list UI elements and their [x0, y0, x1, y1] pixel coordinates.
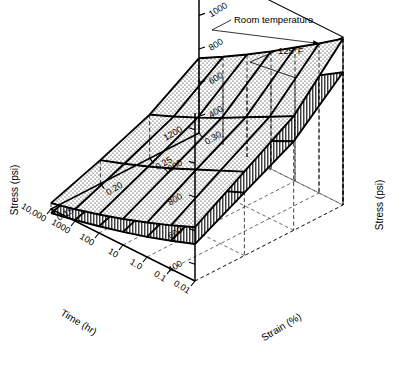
axis-title-time: Time (hr) — [59, 307, 99, 337]
figure-canvas: 12001200100010008008006006004004000.010.… — [0, 0, 397, 382]
time-tick-1: 0.1 — [152, 269, 168, 284]
stress-left-tick-400: 400 — [166, 258, 184, 274]
stress-right-tick-800: 800 — [207, 36, 225, 52]
time-tick-4: 100 — [78, 231, 96, 247]
stress-right-tick-1000: 1000 — [207, 0, 229, 19]
time-tick-3: 10 — [106, 246, 120, 260]
time-tick-2: 1.0 — [128, 257, 144, 272]
time-tick-0: 0.01 — [172, 278, 192, 296]
annotation-125f: 125°F — [278, 45, 304, 56]
axis-title-stress-left: Stress (psi) — [9, 165, 20, 216]
axis-title-stress-right: Stress (psi) — [374, 180, 385, 231]
surface-plot: 12001200100010008008006006004004000.010.… — [0, 0, 397, 382]
annotation-room-temperature: Room temperature — [234, 14, 313, 25]
time-tick-6: 10,000 — [19, 201, 48, 224]
axis-title-strain: Strain (%) — [259, 311, 303, 343]
